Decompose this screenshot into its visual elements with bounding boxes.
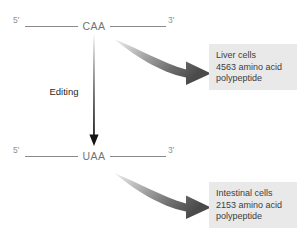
figure-canvas: 5' CAA 3' Editing (0, 0, 305, 236)
liver-product: polypeptide (216, 73, 290, 85)
swoosh-arrow-to-liver (112, 36, 214, 90)
liver-polypeptide-length: 4563 amino acid (216, 62, 290, 74)
strand-bottom-three-prime-label: 3' (168, 143, 174, 157)
intestinal-cell-type: Intestinal cells (216, 188, 290, 200)
liver-cell-type: Liver cells (216, 50, 290, 62)
editing-process-label: Editing (44, 85, 84, 98)
strand-top-three-prime-label: 3' (168, 13, 174, 27)
rna-strand-bottom: 5' UAA 3' (0, 145, 305, 169)
strand-bottom-line-right (110, 156, 166, 157)
strand-top-five-prime-label: 5' (13, 13, 19, 27)
result-box-intestinal: Intestinal cells 2153 amino acid polypep… (209, 182, 297, 228)
intestinal-polypeptide-length: 2153 amino acid (216, 200, 290, 212)
strand-bottom-line-left (25, 156, 78, 157)
strand-top-line-left (25, 26, 78, 27)
strand-bottom-five-prime-label: 5' (13, 143, 19, 157)
swoosh-arrow-to-intestinal (112, 170, 214, 224)
intestinal-product: polypeptide (216, 211, 290, 223)
editing-arrow (86, 34, 102, 146)
strand-bottom-codon: UAA (76, 145, 112, 167)
result-box-liver: Liver cells 4563 amino acid polypeptide (209, 44, 297, 90)
strand-top-line-right (110, 26, 166, 27)
